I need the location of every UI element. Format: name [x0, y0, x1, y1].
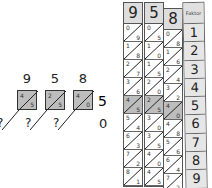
carry-line [58, 108, 76, 130]
result-digit: 0 [99, 116, 107, 131]
factor-cell: 4 [185, 79, 205, 98]
rod-cell: 25 [145, 96, 163, 114]
factor-cell: 9 [186, 170, 206, 188]
multiplicand-digit: 5 [45, 71, 65, 86]
rod-cell: 72 [124, 150, 142, 168]
carry-line [2, 108, 20, 130]
rod-cell: 18 [124, 42, 142, 60]
factor-cell: 1 [184, 24, 204, 43]
rod-cell: 56 [164, 138, 182, 156]
factor-cell: 2 [184, 42, 204, 61]
factor-cell: 7 [186, 134, 206, 153]
factor-cell: 3 [184, 60, 204, 79]
rod-cell: 20 [145, 78, 163, 96]
rod-cell: 81 [124, 168, 142, 186]
rod-cell: 48 [164, 120, 182, 138]
multiplicand-digit: 9 [17, 71, 37, 86]
rod-header: 8 [164, 9, 182, 30]
rod-cell: 35 [145, 132, 163, 150]
lattice-cell: 45 [17, 90, 37, 110]
rod-cell: 63 [124, 132, 142, 150]
multiplier: 5 [98, 93, 107, 109]
factor-cell: 8 [186, 152, 206, 171]
carry-line [30, 108, 48, 130]
rod-header: 5 [145, 3, 163, 24]
carry-unknown: ? [53, 116, 59, 130]
rod-cell: 24 [164, 66, 182, 84]
factor-header: Faktor [183, 3, 203, 24]
carry-unknown: ? [25, 116, 31, 130]
rod-9: 9091827364554637281 [123, 2, 143, 187]
rod-cell: 08 [164, 30, 182, 48]
rod-cell: 15 [145, 60, 163, 78]
rod-cell: 64 [164, 156, 182, 174]
rod-5: 5051015202530354045 [144, 2, 164, 187]
rod-cell: 36 [124, 78, 142, 96]
rod-cell: 09 [124, 24, 142, 42]
factor-rod: Faktor 123456789 [182, 2, 207, 188]
rod-cell: 05 [145, 24, 163, 42]
carry-unknown: ? [0, 116, 3, 130]
lattice-cell: 40 [73, 90, 93, 110]
rod-cell: 30 [145, 114, 163, 132]
rod-cell: 32 [164, 84, 182, 102]
rod-cell: 45 [145, 168, 163, 186]
rod-cell: 40 [145, 150, 163, 168]
multiplicand-digit: 8 [73, 71, 93, 86]
factor-cell: 6 [185, 115, 205, 134]
rod-cell: 16 [164, 48, 182, 66]
rod-cell: 40 [164, 102, 182, 120]
factor-cell: 5 [185, 97, 205, 116]
rod-cell: 10 [145, 42, 163, 60]
rod-cell: 54 [124, 114, 142, 132]
rod-header: 9 [124, 3, 142, 24]
lattice-cell: 25 [45, 90, 65, 110]
rod-8: 8081624324048566472 [163, 8, 183, 188]
rod-cell: 72 [164, 174, 182, 188]
rod-cell: 27 [124, 60, 142, 78]
rod-cell: 45 [124, 96, 142, 114]
